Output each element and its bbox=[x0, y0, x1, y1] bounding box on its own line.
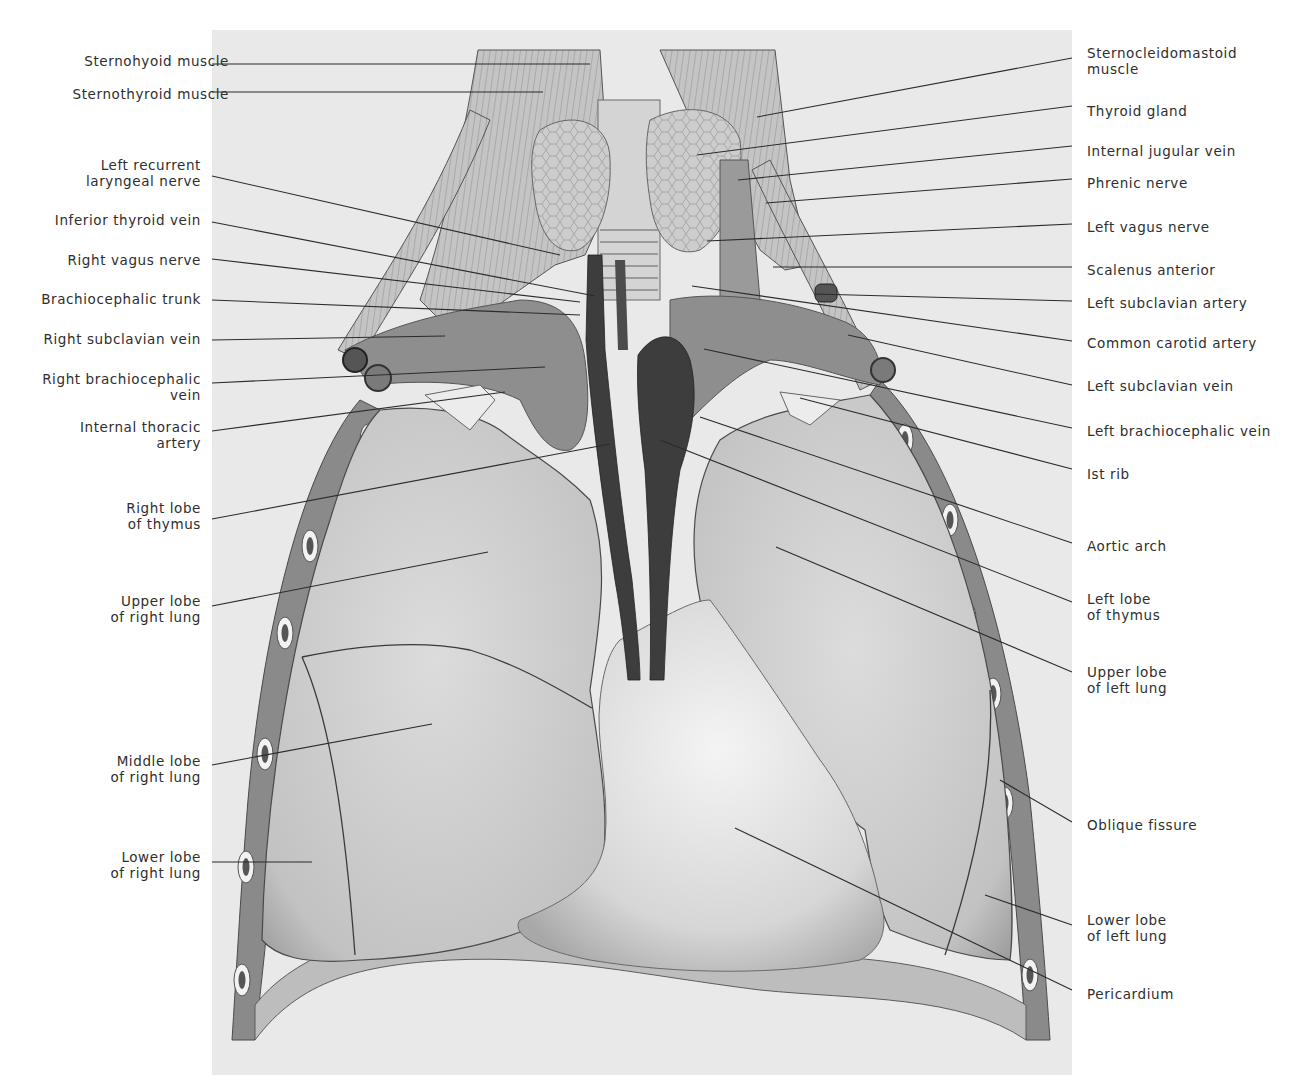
label-lower-lobe-of-left-lung: Lower lobe of left lung bbox=[1087, 912, 1167, 944]
right-subclavian-vein-end bbox=[343, 348, 367, 372]
label-internal-thoracic-artery: Internal thoracic artery bbox=[80, 419, 201, 451]
left-subclavian-vein-end bbox=[871, 358, 895, 382]
label-brachiocephalic-trunk: Brachiocephalic trunk bbox=[41, 291, 201, 307]
label-common-carotid-artery: Common carotid artery bbox=[1087, 335, 1257, 351]
label-right-subclavian-vein: Right subclavian vein bbox=[43, 331, 201, 347]
label-middle-lobe-of-right-lung: Middle lobe of right lung bbox=[110, 753, 201, 785]
label-inferior-thyroid-vein: Inferior thyroid vein bbox=[55, 212, 201, 228]
label-scalenus-anterior: Scalenus anterior bbox=[1087, 262, 1216, 278]
right-brachiocephalic-end bbox=[365, 365, 391, 391]
label-right-brachiocephalic-vein: Right brachiocephalic vein bbox=[42, 371, 201, 403]
label-right-vagus-nerve: Right vagus nerve bbox=[68, 252, 201, 268]
label-internal-jugular-vein: Internal jugular vein bbox=[1087, 143, 1236, 159]
label-aortic-arch: Aortic arch bbox=[1087, 538, 1167, 554]
label-lower-lobe-of-right-lung: Lower lobe of right lung bbox=[110, 849, 201, 881]
left-subclavian-artery-end bbox=[815, 284, 837, 302]
label-oblique-fissure: Oblique fissure bbox=[1087, 817, 1197, 833]
label-left-brachiocephalic-vein: Left brachiocephalic vein bbox=[1087, 423, 1271, 439]
label-phrenic-nerve: Phrenic nerve bbox=[1087, 175, 1188, 191]
label-thyroid-gland: Thyroid gland bbox=[1087, 103, 1187, 119]
label-sternohyoid-muscle: Sternohyoid muscle bbox=[84, 53, 229, 69]
label-sternocleidomastoid-muscle: Sternocleidomastoid muscle bbox=[1087, 45, 1237, 77]
label-left-subclavian-artery: Left subclavian artery bbox=[1087, 295, 1247, 311]
label-sternothyroid-muscle: Sternothyroid muscle bbox=[73, 86, 229, 102]
label-pericardium: Pericardium bbox=[1087, 986, 1174, 1002]
label-right-lobe-of-thymus: Right lobe of thymus bbox=[126, 500, 201, 532]
label-1st-rib: Ist rib bbox=[1087, 466, 1130, 482]
label-left-recurrent-laryngeal-nerve: Left recurrent laryngeal nerve bbox=[86, 157, 201, 189]
label-left-vagus-nerve: Left vagus nerve bbox=[1087, 219, 1210, 235]
label-left-subclavian-vein: Left subclavian vein bbox=[1087, 378, 1234, 394]
label-upper-lobe-of-right-lung: Upper lobe of right lung bbox=[110, 593, 201, 625]
label-left-lobe-of-thymus: Left lobe of thymus bbox=[1087, 591, 1160, 623]
label-upper-lobe-of-left-lung: Upper lobe of left lung bbox=[1087, 664, 1167, 696]
